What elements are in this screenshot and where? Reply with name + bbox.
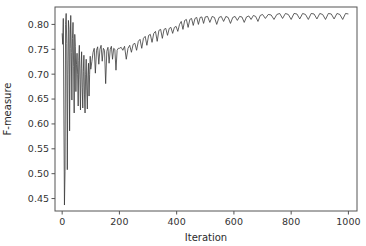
y-tick-label: 0.70 <box>28 69 49 80</box>
figure-canvas: 02004006008001000 0.450.500.550.600.650.… <box>0 0 366 246</box>
y-axis-label: F-measure <box>2 83 13 136</box>
y-tick-label: 0.45 <box>28 193 49 204</box>
y-tick-label: 0.55 <box>28 143 49 154</box>
line-chart: 02004006008001000 0.450.500.550.600.650.… <box>0 0 366 246</box>
y-tick-label: 0.80 <box>28 19 49 30</box>
x-axis-ticks: 02004006008001000 <box>59 211 360 227</box>
y-tick-label: 0.75 <box>28 44 49 55</box>
plot-area: 02004006008001000 0.450.500.550.600.650.… <box>28 7 361 227</box>
x-tick-label: 1000 <box>336 216 360 227</box>
x-tick-label: 400 <box>168 216 186 227</box>
x-axis-label: Iteration <box>185 232 227 243</box>
x-tick-label: 800 <box>282 216 300 227</box>
x-tick-label: 600 <box>225 216 243 227</box>
y-axis-ticks: 0.450.500.550.600.650.700.750.80 <box>28 19 55 204</box>
y-tick-label: 0.65 <box>28 93 49 104</box>
y-tick-label: 0.50 <box>28 168 49 179</box>
plot-background <box>55 7 357 211</box>
x-tick-label: 200 <box>110 216 128 227</box>
y-tick-label: 0.60 <box>28 118 49 129</box>
x-tick-label: 0 <box>59 216 65 227</box>
